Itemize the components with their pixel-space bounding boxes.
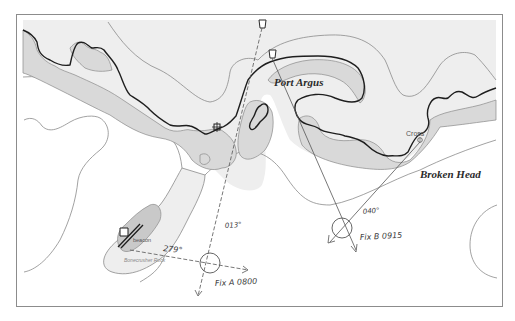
beacon-icon: [120, 228, 128, 236]
square-marker-icon: [212, 122, 222, 132]
nautical-chart: Port Argus Broken Head Cross beacon Bone…: [0, 0, 515, 321]
light-tower-icon: [259, 20, 266, 28]
label-port-argus: Port Argus: [274, 76, 323, 88]
bearing-label-013: 013°: [225, 221, 242, 230]
label-bonecrusher-rock: Bonecrusher Rock: [124, 257, 166, 263]
bearing-label-040: 040°: [362, 207, 380, 216]
label-broken-head: Broken Head: [419, 168, 481, 180]
label-cross: Cross: [406, 130, 425, 137]
label-beacon: beacon: [133, 237, 151, 243]
light-tower-icon: [269, 50, 276, 58]
